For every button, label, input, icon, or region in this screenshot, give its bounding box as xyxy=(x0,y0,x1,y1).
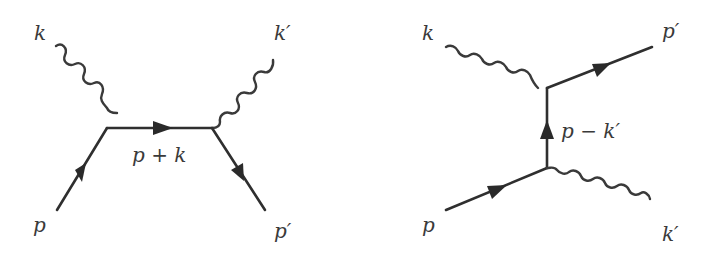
label-outgoing-photon: k′ xyxy=(662,222,679,246)
label-incoming-photon: k xyxy=(34,21,46,45)
outgoing-photon-line xyxy=(212,60,273,128)
incoming-photon-line xyxy=(56,45,117,113)
u-channel-diagram: k p′ p k′ p − k′ xyxy=(422,19,680,246)
label-incoming-fermion: p xyxy=(422,213,435,237)
incoming-photon-line xyxy=(446,46,538,88)
fermion-arrow-icon xyxy=(487,185,507,199)
label-incoming-fermion: p xyxy=(33,213,46,237)
label-outgoing-fermion: p′ xyxy=(662,19,680,43)
outgoing-photon-line xyxy=(547,168,650,200)
fermion-arrow-icon xyxy=(592,63,611,77)
propagator-arrow-icon xyxy=(153,121,173,135)
label-incoming-photon: k xyxy=(422,21,434,45)
label-propagator: p − k′ xyxy=(561,119,620,143)
label-outgoing-photon: k′ xyxy=(274,21,291,45)
label-propagator: p + k xyxy=(132,143,186,167)
propagator-arrow-icon xyxy=(540,120,554,139)
label-outgoing-fermion: p′ xyxy=(274,219,292,243)
s-channel-diagram: k k′ p p′ p + k xyxy=(33,21,292,243)
feynman-diagrams-figure: k k′ p p′ p + k k p′ p k′ p − k′ xyxy=(0,0,712,254)
